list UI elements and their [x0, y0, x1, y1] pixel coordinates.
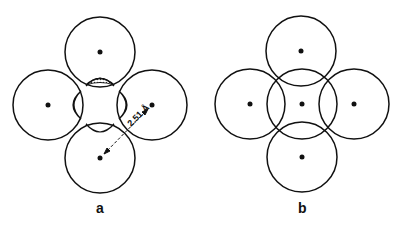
panel-a: 2.51 Å [13, 17, 187, 193]
atom-center-center [300, 102, 305, 107]
shaded-regions [73, 78, 127, 132]
panel-b [215, 16, 389, 192]
atom-center-bottom [98, 156, 103, 161]
atom-center-bottom [300, 155, 305, 160]
atom-center-top [98, 50, 103, 55]
distance-label: 2.51 Å [125, 102, 151, 128]
atom-center-right [150, 103, 155, 108]
panel-a-label: a [96, 200, 104, 216]
panel-b-label: b [298, 200, 307, 216]
diagram-canvas: 2.51 Å [0, 0, 401, 225]
atom-center-left [46, 103, 51, 108]
atom-center-right [352, 102, 357, 107]
atom-center-left [248, 102, 253, 107]
atom-center-top [299, 49, 304, 54]
